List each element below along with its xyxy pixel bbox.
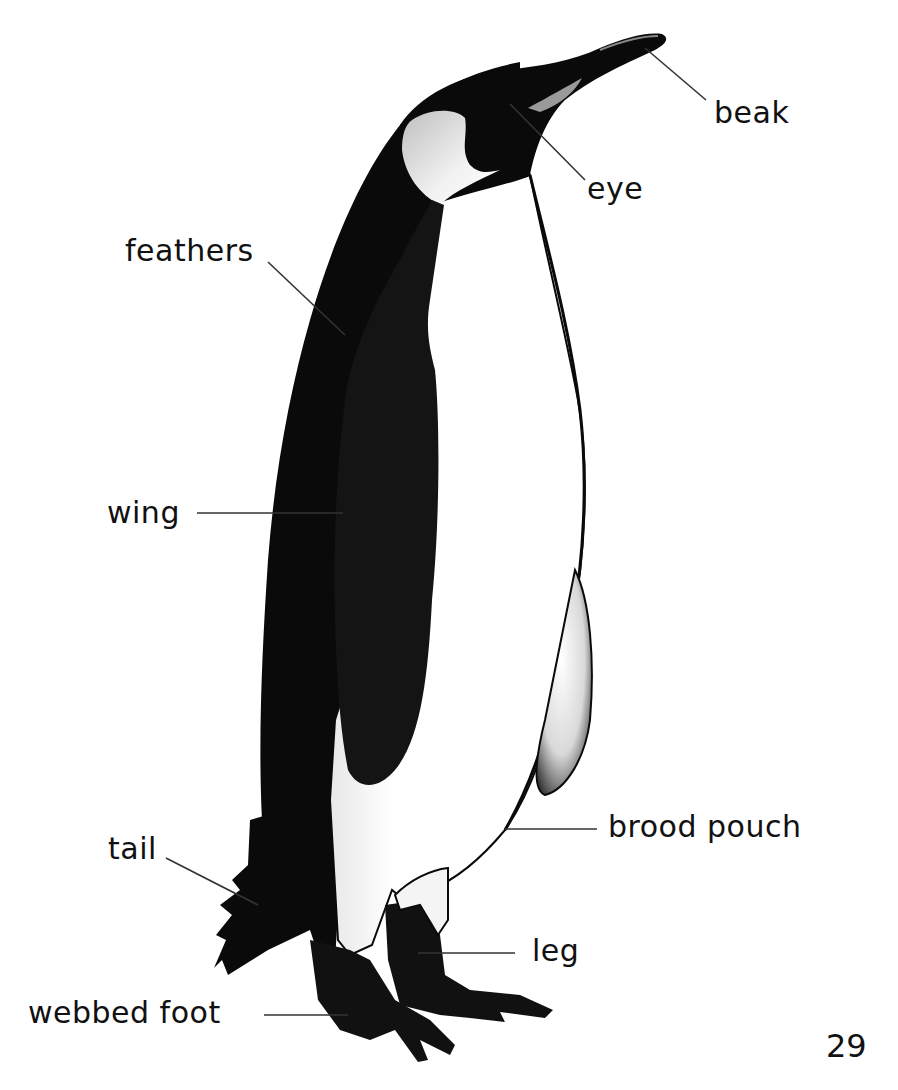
label-beak: beak <box>714 98 789 128</box>
label-wing: wing <box>107 498 180 528</box>
right-leg <box>385 900 553 1022</box>
label-brood-pouch: brood pouch <box>608 812 801 842</box>
beak-leader <box>645 48 706 100</box>
penguin-illustration <box>0 0 898 1090</box>
label-webbed-foot: webbed foot <box>28 998 221 1028</box>
penguin-diagram: beak eye feathers wing brood pouch tail … <box>0 0 898 1090</box>
label-feathers: feathers <box>125 236 254 266</box>
label-tail: tail <box>108 834 157 864</box>
page-number: 29 <box>826 1030 867 1062</box>
label-leg: leg <box>532 936 579 966</box>
label-eye: eye <box>587 174 643 204</box>
